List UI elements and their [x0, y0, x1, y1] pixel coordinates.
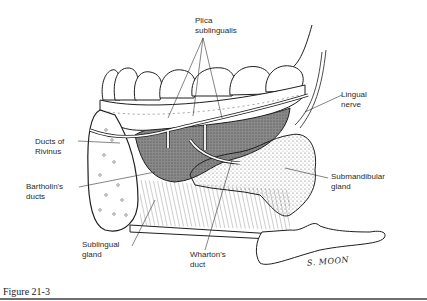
label-ducts-of-rivinus: Ducts of Rivinus — [35, 137, 64, 157]
label-whartons-duct: Wharton's duct — [190, 250, 226, 270]
label-sublingual-gland: Sublingual gland — [82, 240, 119, 260]
cheek-outline — [290, 25, 312, 70]
anatomy-figure: Plica sublingualis Lingual nerve Ducts o… — [0, 0, 427, 301]
label-lingual-nerve: Lingual nerve — [341, 90, 367, 110]
label-submandibular-gland: Submandibular gland — [331, 172, 385, 192]
caption-rule — [0, 298, 427, 300]
figure-caption: Figure 21-3 — [3, 286, 50, 297]
label-plica-sublingualis: Plica sublingualis — [195, 16, 237, 36]
label-bartholins-ducts: Bartholin's ducts — [26, 182, 63, 202]
